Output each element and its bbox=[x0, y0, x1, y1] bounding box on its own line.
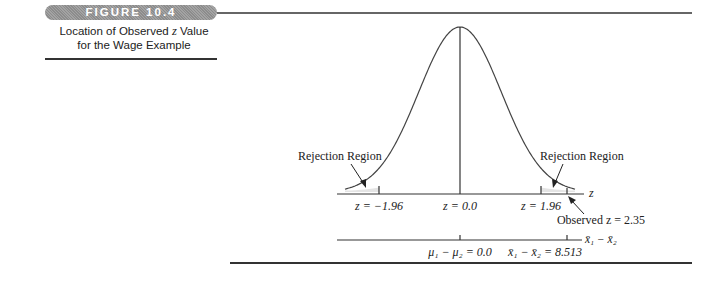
right-arrowhead-icon bbox=[552, 179, 558, 188]
z-axis-label: z bbox=[588, 186, 594, 200]
right-critical-label: z = 1.96 bbox=[520, 199, 561, 213]
left-rejection-label: Rejection Region bbox=[298, 149, 382, 163]
normal-curve-diagram: z Rejection Region Rejection Region z = … bbox=[0, 0, 728, 282]
left-critical-label: z = −1.96 bbox=[354, 199, 403, 213]
right-rejection-label: Rejection Region bbox=[540, 149, 624, 163]
right-rejection-arrow bbox=[555, 164, 563, 183]
observed-arrowhead-icon bbox=[568, 196, 576, 204]
observed-z-label: Observed z = 2.35 bbox=[557, 213, 645, 227]
lower-center-label: μ₁ − μ₂ = 0.0 bbox=[427, 245, 492, 259]
lower-axis-label: x̄₁ − x̄₂ bbox=[584, 233, 617, 245]
lower-observed-label: x̄₁ − x̄₂ = 8.513 bbox=[507, 245, 582, 259]
center-z-label: z = 0.0 bbox=[442, 199, 477, 213]
